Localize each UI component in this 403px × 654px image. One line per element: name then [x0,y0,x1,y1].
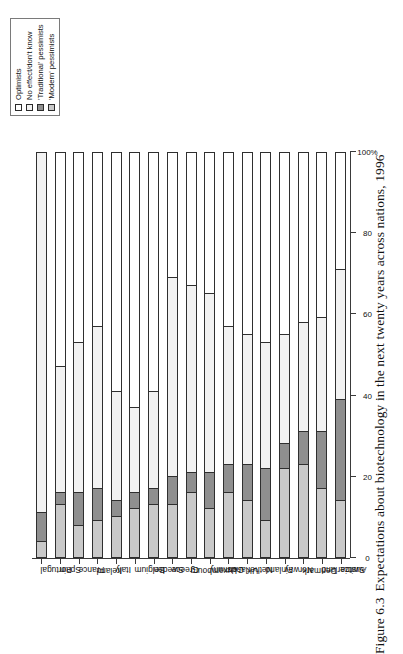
bar-segment [260,343,271,469]
bar-segment [92,152,103,327]
bar-segment [335,400,346,502]
category-tick [322,558,323,564]
bar-segment [204,473,215,510]
category-tick [97,558,98,564]
bar-segment [129,509,140,558]
bar-segment [242,335,253,465]
bar-segment [55,152,66,367]
category-tick [79,558,80,564]
axis-tick [350,557,356,558]
category-axis-label: UK [247,566,259,575]
legend-item-traditional-pessimists: 'Traditional' pessimists [36,24,45,111]
bar-segment [223,327,234,465]
bar-segment [129,152,140,408]
bar-row [242,152,253,558]
bar-segment [298,152,309,323]
bar-row [223,152,234,558]
bar-segment [279,444,290,468]
bar-segment [204,152,215,294]
category-tick [60,558,61,564]
category-tick [285,558,286,564]
axis-tick-label: 0 [365,554,369,563]
category-tick [41,558,42,564]
bar-series-group [32,152,350,558]
square-swatch-icon [37,104,44,111]
bar-row [111,152,122,558]
axis-tick [350,232,356,233]
bar-segment [316,432,327,489]
bar-segment [129,408,140,493]
category-tick [303,558,304,564]
bar-row [186,152,197,558]
bar-row [298,152,309,558]
bar-segment [186,473,197,493]
bar-segment [186,493,197,558]
axis-tick [350,313,356,314]
category-axis-label: Italy [116,566,131,575]
bar-segment [73,343,84,493]
bar-segment [204,509,215,558]
bar-row [335,152,346,558]
chart-legend: Optimists No effect/don't know 'Traditio… [10,18,60,116]
category-tick [172,558,173,564]
legend-label: No effect/don't know [25,32,34,100]
bar-segment [36,542,47,558]
bar-segment [167,278,178,477]
category-tick [135,558,136,564]
axis-tick-label: 20 [363,472,372,481]
category-tick [154,558,155,564]
bar-segment [167,477,178,505]
square-swatch-icon [15,104,22,111]
category-tick [266,558,267,564]
figure-container: Optimists No effect/don't know 'Traditio… [0,0,403,654]
bar-row [73,152,84,558]
legend-label: 'Modern' pessimists [47,34,56,100]
bar-segment [316,489,327,558]
bar-segment [316,318,327,432]
bar-segment [148,392,159,489]
bar-segment [260,521,271,558]
bar-row [316,152,327,558]
bar-segment [204,294,215,473]
category-tick [116,558,117,564]
legend-label: Optimists [14,68,23,100]
bar-segment [92,327,103,489]
bar-segment [335,501,346,558]
bar-segment [298,465,309,558]
bar-segment [242,465,253,502]
bar-segment [186,152,197,286]
bar-segment [55,505,66,558]
bar-segment [148,505,159,558]
bar-segment [148,489,159,505]
category-tick [247,558,248,564]
bar-row [129,152,140,558]
axis-tick [350,151,356,152]
bar-segment [223,465,234,493]
bar-row [55,152,66,558]
bar-segment [223,493,234,558]
bar-segment [92,489,103,521]
bar-segment [111,501,122,517]
category-axis-label: Austria [340,566,366,575]
figure-caption-text: Expectations about biotechnology in the … [372,154,387,591]
square-swatch-icon [48,104,55,111]
bar-segment [335,152,346,270]
bar-row [148,152,159,558]
bar-segment [73,152,84,343]
axis-tick-label: 80 [363,229,372,238]
bar-segment [111,517,122,558]
category-tick [210,558,211,564]
legend-item-no-effect: No effect/don't know [25,24,34,111]
bar-segment [111,392,122,502]
bar-segment [167,505,178,558]
bar-segment [55,367,66,493]
bar-segment [260,152,271,343]
bar-segment [298,323,309,433]
square-swatch-icon [26,104,33,111]
axis-tick [350,476,356,477]
bar-segment [129,493,140,509]
bar-segment [279,469,290,558]
bar-row [92,152,103,558]
bar-segment [242,152,253,335]
bar-segment [316,152,327,318]
